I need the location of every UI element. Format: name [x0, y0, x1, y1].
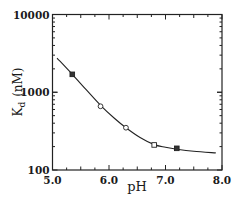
kd-vs-ph-chart: 5.06.07.08.0 100100010000 pH Kd(nM) [0, 0, 237, 206]
x-axis-title: pH [127, 179, 147, 194]
y-tick-label: 100 [28, 164, 50, 176]
data-point [70, 72, 75, 77]
svg-text:Kd(nM): Kd(nM) [11, 67, 27, 116]
data-point [152, 143, 157, 148]
axis-ticks [53, 15, 223, 171]
y-axis-title-sub: d [17, 102, 27, 108]
data-points [70, 72, 179, 151]
y-axis-title: Kd(nM) [11, 67, 27, 116]
y-axis-title-unit: (nM) [11, 67, 25, 96]
data-point [98, 104, 103, 109]
plot-frame [53, 15, 223, 171]
fit-curve [57, 58, 216, 153]
x-tick-label: 7.0 [156, 174, 174, 186]
y-tick-label: 10000 [13, 9, 50, 21]
data-point [124, 125, 129, 130]
x-tick-label: 8.0 [213, 174, 231, 186]
data-point [175, 146, 180, 151]
x-tick-label: 6.0 [100, 174, 118, 186]
